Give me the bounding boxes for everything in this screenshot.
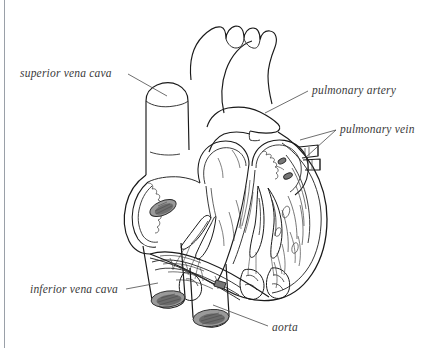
fine-detail-strokes [218,150,241,246]
pulmonary-artery-vessel [207,107,280,152]
right-atrium [132,177,200,247]
muscle-bundle-c [274,227,282,237]
superior-vena-cava-vessel [146,83,189,175]
heart-illustration [124,26,327,328]
label-aorta: aorta [272,322,298,334]
pulmonary-vein-stubs [299,145,320,170]
pulmonary-vein-opening-upper [277,157,287,165]
atrial-septum-upper [198,141,249,218]
leader-inferior-vena-cava [126,283,158,289]
label-superior-vena-cava: superior vena cava [20,68,112,80]
muscle-bundle-a [281,205,291,219]
label-inferior-vena-cava: inferior vena cava [30,284,118,296]
apex-shadow-accent [214,280,226,289]
left-atrium [252,140,308,195]
label-pulmonary-vein: pulmonary vein [340,124,415,136]
pulmonary-vein-opening-lower [283,172,294,181]
heart-diagram-svg [0,0,439,348]
label-pulmonary-artery: pulmonary artery [312,85,396,97]
heart-anatomy-figure: superior vena cava pulmonary artery pulm… [0,0,439,348]
aortic-arch [191,26,277,113]
